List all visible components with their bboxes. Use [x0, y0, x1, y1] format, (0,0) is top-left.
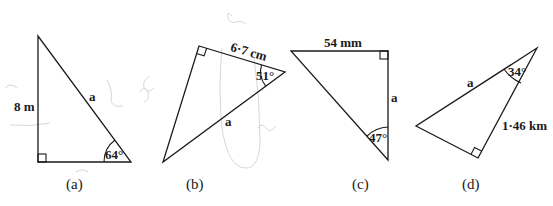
side-label-a: 8 m [14, 99, 35, 114]
triangle-d: a 34° 1·46 km (d) [416, 48, 547, 193]
side-label-d: 1·46 km [502, 118, 547, 133]
triangles-diagram: 8 m a 64° (a) 6·7 cm a 51° (b) 54 mm a 4… [0, 0, 553, 206]
unknown-label-a: a [89, 89, 96, 104]
angle-label-b: 51° [256, 68, 274, 83]
caption-a: (a) [66, 176, 83, 193]
caption-d: (d) [462, 176, 480, 193]
side-label-b: 6·7 cm [229, 39, 269, 64]
side-label-c: 54 mm [324, 35, 362, 50]
unknown-label-b: a [225, 114, 232, 129]
triangle-c: 54 mm a 47° (c) [291, 35, 398, 193]
pencil-marks [5, 13, 276, 172]
triangle-b-outline [163, 46, 285, 162]
caption-c: (c) [352, 176, 369, 193]
right-angle-mark-a [38, 154, 46, 162]
triangle-a: 8 m a 64° (a) [14, 36, 131, 193]
caption-b: (b) [186, 176, 204, 193]
unknown-label-c: a [391, 90, 398, 105]
triangle-b: 6·7 cm a 51° (b) [163, 39, 285, 193]
angle-label-d: 34° [508, 64, 526, 79]
angle-label-c: 47° [369, 130, 387, 145]
triangle-a-outline [38, 36, 131, 162]
angle-label-a: 64° [105, 147, 123, 162]
right-angle-mark-c [380, 51, 388, 59]
unknown-label-d: a [467, 75, 474, 90]
